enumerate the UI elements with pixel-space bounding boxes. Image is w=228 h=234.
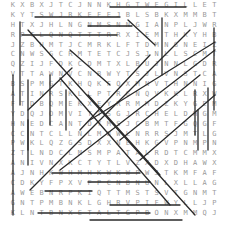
grid-cell[interactable]: G xyxy=(66,139,76,149)
grid-cell[interactable]: Y xyxy=(94,120,104,130)
grid-cell[interactable]: G xyxy=(171,41,181,51)
grid-cell[interactable]: T xyxy=(27,31,37,41)
grid-cell[interactable]: R xyxy=(56,189,66,199)
grid-cell[interactable]: N xyxy=(66,120,76,130)
grid-cell[interactable]: L xyxy=(152,70,162,80)
grid-cell[interactable]: M xyxy=(209,100,219,110)
grid-cell[interactable]: T xyxy=(104,50,114,60)
grid-cell[interactable]: V xyxy=(162,189,172,199)
grid-cell[interactable]: A xyxy=(8,159,18,169)
grid-cell[interactable]: M xyxy=(75,149,85,159)
grid-cell[interactable]: X xyxy=(171,179,181,189)
grid-cell[interactable]: H xyxy=(37,169,47,179)
grid-cell[interactable]: K xyxy=(142,139,152,149)
grid-cell[interactable]: M xyxy=(133,80,143,90)
grid-cell[interactable]: Y xyxy=(181,100,191,110)
grid-cell[interactable]: N xyxy=(85,21,95,31)
grid-cell[interactable]: C xyxy=(8,50,18,60)
grid-cell[interactable]: R xyxy=(152,130,162,140)
grid-cell[interactable]: M xyxy=(152,41,162,51)
grid-cell[interactable]: L xyxy=(37,139,47,149)
grid-cell[interactable]: J xyxy=(142,50,152,60)
grid-cell[interactable]: C xyxy=(133,120,143,130)
grid-cell[interactable]: S xyxy=(133,50,143,60)
grid-cell[interactable]: G xyxy=(123,1,133,11)
grid-cell[interactable]: B xyxy=(27,1,37,11)
grid-cell[interactable]: G xyxy=(181,120,191,130)
grid-cell[interactable]: R xyxy=(142,130,152,140)
grid-cell[interactable]: I xyxy=(27,60,37,70)
grid-cell[interactable]: S xyxy=(18,80,28,90)
grid-cell[interactable]: W xyxy=(27,50,37,60)
grid-cell[interactable]: N xyxy=(152,50,162,60)
grid-cell[interactable]: B xyxy=(37,189,47,199)
grid-cell[interactable]: K xyxy=(75,199,85,209)
grid-cell[interactable]: G xyxy=(133,21,143,31)
grid-cell[interactable]: L xyxy=(181,1,191,11)
grid-cell[interactable]: M xyxy=(94,21,104,31)
grid-cell[interactable]: V xyxy=(162,70,172,80)
grid-cell[interactable]: N xyxy=(37,149,47,159)
grid-cell[interactable]: D xyxy=(162,149,172,159)
grid-cell[interactable]: N xyxy=(18,120,28,130)
grid-cell[interactable]: Q xyxy=(46,139,56,149)
grid-cell[interactable]: K xyxy=(171,169,181,179)
grid-cell[interactable]: M xyxy=(133,100,143,110)
grid-cell[interactable]: K xyxy=(27,179,37,189)
grid-cell[interactable]: R xyxy=(152,149,162,159)
grid-cell[interactable]: W xyxy=(114,130,124,140)
grid-cell[interactable]: K xyxy=(94,169,104,179)
grid-cell[interactable]: C xyxy=(56,149,66,159)
grid-cell[interactable]: K xyxy=(162,90,172,100)
grid-cell[interactable]: T xyxy=(171,189,181,199)
grid-cell[interactable]: M xyxy=(94,130,104,140)
grid-cell[interactable]: M xyxy=(56,100,66,110)
grid-cell[interactable]: P xyxy=(18,31,28,41)
grid-cell[interactable]: V xyxy=(75,179,85,189)
grid-cell[interactable]: W xyxy=(56,169,66,179)
grid-cell[interactable]: N xyxy=(133,90,143,100)
grid-cell[interactable]: X xyxy=(171,11,181,21)
grid-cell[interactable]: P xyxy=(27,80,37,90)
grid-cell[interactable]: L xyxy=(85,199,95,209)
grid-cell[interactable]: A xyxy=(200,169,210,179)
grid-cell[interactable]: T xyxy=(162,120,172,130)
grid-cell[interactable]: J xyxy=(209,209,219,219)
grid-cell[interactable]: E xyxy=(66,100,76,110)
grid-cell[interactable]: D xyxy=(171,159,181,169)
grid-cell[interactable]: D xyxy=(85,60,95,70)
grid-cell[interactable]: S xyxy=(114,120,124,130)
grid-cell[interactable]: V xyxy=(152,80,162,90)
grid-cell[interactable]: X xyxy=(171,209,181,219)
grid-cell[interactable]: K xyxy=(66,60,76,70)
grid-cell[interactable]: U xyxy=(142,179,152,189)
grid-cell[interactable]: J xyxy=(123,50,133,60)
grid-cell[interactable]: J xyxy=(37,60,47,70)
grid-cell[interactable]: Q xyxy=(114,80,124,90)
grid-cell[interactable]: R xyxy=(114,199,124,209)
grid-cell[interactable]: I xyxy=(133,31,143,41)
grid-cell[interactable]: W xyxy=(162,199,172,209)
grid-cell[interactable]: K xyxy=(75,100,85,110)
grid-cell[interactable]: N xyxy=(152,179,162,189)
grid-cell[interactable]: G xyxy=(46,50,56,60)
grid-cell[interactable]: I xyxy=(27,159,37,169)
grid-cell[interactable]: P xyxy=(133,209,143,219)
grid-cell[interactable]: T xyxy=(209,50,219,60)
grid-cell[interactable]: N xyxy=(209,139,219,149)
grid-cell[interactable]: S xyxy=(56,90,66,100)
grid-cell[interactable]: T xyxy=(94,110,104,120)
grid-cell[interactable]: Q xyxy=(46,100,56,110)
grid-cell[interactable]: T xyxy=(18,100,28,110)
grid-cell[interactable]: R xyxy=(114,31,124,41)
grid-cell[interactable]: W xyxy=(18,139,28,149)
grid-cell[interactable]: W xyxy=(200,21,210,31)
grid-cell[interactable]: T xyxy=(56,1,66,11)
grid-cell[interactable]: T xyxy=(190,130,200,140)
grid-cell[interactable]: S xyxy=(152,189,162,199)
grid-cell[interactable]: M xyxy=(75,50,85,60)
grid-cell[interactable]: R xyxy=(94,41,104,51)
grid-cell[interactable]: Y xyxy=(171,199,181,209)
grid-cell[interactable]: M xyxy=(94,149,104,159)
grid-cell[interactable]: N xyxy=(37,90,47,100)
